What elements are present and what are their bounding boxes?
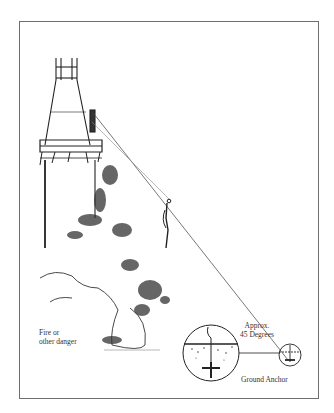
fire-danger-label: Fire or other danger bbox=[39, 328, 77, 346]
angle-label: Approx. 45 Degrees bbox=[240, 321, 274, 339]
ground-anchor-label: Ground Anchor bbox=[241, 375, 288, 384]
foliage-shading bbox=[67, 165, 170, 344]
soil-stipple bbox=[191, 346, 233, 360]
angle-label-line2: 45 Degrees bbox=[240, 330, 274, 339]
illustration bbox=[0, 0, 334, 413]
fire-label-line1: Fire or bbox=[39, 328, 77, 337]
fire-label-line2: other danger bbox=[39, 337, 77, 346]
ground-anchor-small-circle bbox=[279, 344, 301, 366]
angle-label-line1: Approx. bbox=[240, 321, 274, 330]
person-on-line bbox=[163, 199, 171, 248]
